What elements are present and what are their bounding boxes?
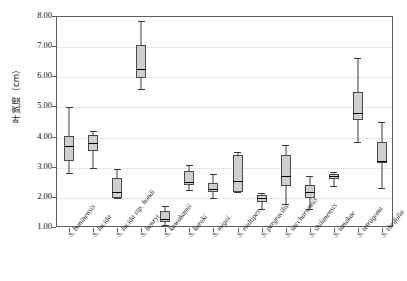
iqr-box	[64, 136, 74, 160]
max-cap	[186, 165, 193, 166]
max-cap	[354, 58, 361, 59]
max-cap	[138, 21, 145, 22]
upper-whisker	[117, 169, 118, 178]
lower-whisker	[93, 151, 94, 168]
upper-whisker	[381, 122, 382, 142]
min-cap	[330, 186, 337, 187]
median-line	[208, 189, 218, 190]
gridline	[57, 168, 392, 169]
y-tick-mark	[52, 227, 56, 228]
median-line	[257, 198, 267, 199]
iqr-box	[208, 183, 218, 192]
y-axis-title: 叶宽度（cm）	[9, 51, 21, 137]
min-cap	[66, 173, 73, 174]
iqr-box	[136, 45, 146, 78]
y-tick-label: 3.00	[12, 162, 52, 171]
max-cap	[114, 169, 121, 170]
y-tick-label: 6.00	[12, 71, 52, 80]
min-cap	[378, 188, 385, 189]
lower-whisker	[333, 179, 334, 186]
upper-whisker	[69, 107, 70, 136]
boxplot-figure: 叶宽度（cm） 1.002.003.004.005.006.007.008.00…	[0, 0, 407, 281]
median-line	[281, 176, 291, 177]
gridline	[57, 138, 392, 139]
median-line	[353, 113, 363, 114]
min-cap	[138, 89, 145, 90]
gridline	[57, 198, 392, 199]
iqr-box	[377, 142, 387, 164]
iqr-box	[353, 92, 363, 119]
median-line	[329, 176, 339, 177]
iqr-box	[281, 155, 291, 185]
median-line	[88, 143, 98, 144]
lower-whisker	[357, 120, 358, 142]
lower-whisker	[141, 78, 142, 89]
iqr-box	[160, 211, 170, 223]
max-cap	[210, 174, 217, 175]
iqr-box	[233, 155, 243, 191]
max-cap	[330, 172, 337, 173]
max-cap	[258, 193, 265, 194]
max-cap	[66, 107, 73, 108]
gridline	[57, 47, 392, 48]
median-line	[64, 146, 74, 147]
median-line	[233, 181, 243, 182]
y-tick-label: 2.00	[12, 192, 52, 201]
median-line	[160, 219, 170, 220]
min-cap	[258, 209, 265, 210]
plot-area	[56, 16, 393, 227]
upper-whisker	[357, 58, 358, 92]
min-cap	[186, 190, 193, 191]
min-cap	[354, 142, 361, 143]
max-cap	[90, 131, 97, 132]
max-cap	[378, 122, 385, 123]
upper-whisker	[285, 145, 286, 156]
median-line	[377, 161, 387, 162]
median-line	[136, 69, 146, 70]
gridline	[57, 77, 392, 78]
median-line	[305, 192, 315, 193]
median-line	[184, 182, 194, 183]
min-cap	[90, 168, 97, 169]
max-cap	[234, 152, 241, 153]
y-tick-label: 4.00	[12, 132, 52, 141]
median-line	[112, 192, 122, 193]
lower-whisker	[261, 202, 262, 209]
iqr-box	[112, 178, 122, 198]
upper-whisker	[213, 174, 214, 183]
y-tick-label: 7.00	[12, 41, 52, 50]
y-tick-label: 1.00	[12, 222, 52, 231]
min-cap	[234, 192, 241, 193]
upper-whisker	[309, 176, 310, 184]
min-cap	[210, 198, 217, 199]
max-cap	[162, 206, 169, 207]
y-tick-label: 5.00	[12, 101, 52, 110]
max-cap	[306, 176, 313, 177]
y-tick-label: 8.00	[12, 11, 52, 20]
min-cap	[114, 198, 121, 199]
upper-whisker	[141, 21, 142, 45]
max-cap	[282, 145, 289, 146]
lower-whisker	[69, 161, 70, 173]
gridline	[57, 107, 392, 108]
lower-whisker	[381, 163, 382, 187]
lower-whisker	[285, 186, 286, 204]
